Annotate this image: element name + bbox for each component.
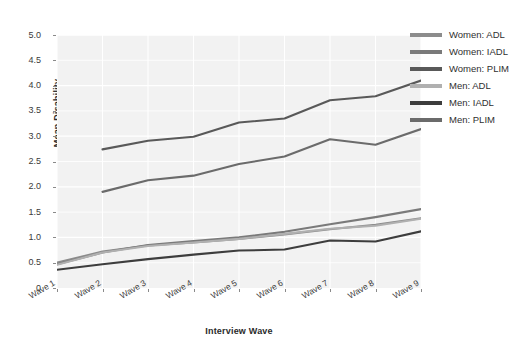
x-tick-mark: [421, 289, 422, 292]
series-line: [103, 81, 422, 150]
x-tick-mark: [285, 289, 286, 292]
y-tick-mark: [53, 35, 56, 36]
y-tick-label: 2.0: [0, 182, 50, 191]
legend-label: Women: ADL: [449, 29, 505, 40]
y-tick-label: 3.5: [0, 106, 50, 115]
x-axis-title: Interview Wave: [57, 326, 421, 336]
legend-label: Men: IADL: [449, 97, 494, 108]
x-tick-mark: [239, 289, 240, 292]
legend-item[interactable]: Women: ADL: [410, 26, 527, 43]
y-tick-mark: [53, 86, 56, 87]
legend-swatch: [410, 101, 442, 105]
legend-label: Women: PLIM: [449, 63, 509, 74]
legend-swatch: [410, 33, 442, 37]
legend-item[interactable]: Men: ADL: [410, 77, 527, 94]
legend-item[interactable]: Men: IADL: [410, 94, 527, 111]
x-tick-mark: [330, 289, 331, 292]
plot-lines: [57, 35, 421, 288]
x-tick-mark: [57, 289, 58, 292]
y-tick-mark: [53, 136, 56, 137]
legend-item[interactable]: Men: PLIM: [410, 111, 527, 128]
legend-swatch: [410, 67, 442, 71]
y-tick-mark: [53, 263, 56, 264]
y-tick-mark: [53, 212, 56, 213]
y-tick-label: 4.0: [0, 81, 50, 90]
legend-item[interactable]: Women: IADL: [410, 43, 527, 60]
y-tick-label: 5.0: [0, 31, 50, 40]
y-tick-label: 1.0: [0, 233, 50, 242]
legend-label: Men: ADL: [449, 80, 491, 91]
legend-swatch: [410, 84, 442, 88]
chart-legend: Women: ADLWomen: IADLWomen: PLIMMen: ADL…: [410, 26, 527, 128]
x-tick-mark: [148, 289, 149, 292]
y-tick-mark: [53, 187, 56, 188]
x-tick-mark: [376, 289, 377, 292]
legend-item[interactable]: Women: PLIM: [410, 60, 527, 77]
y-tick-label: 2.5: [0, 157, 50, 166]
y-tick-mark: [53, 237, 56, 238]
chart-figure: Mean Disability 00.51.01.52.02.53.03.54.…: [0, 0, 527, 344]
legend-label: Women: IADL: [449, 46, 508, 57]
y-tick-mark: [53, 162, 56, 163]
legend-label: Men: PLIM: [449, 114, 495, 125]
x-tick-mark: [103, 289, 104, 292]
y-tick-mark: [53, 60, 56, 61]
y-tick-mark: [53, 288, 56, 289]
plot-panel: [57, 35, 421, 288]
y-tick-label: 0.5: [0, 258, 50, 267]
y-tick-label: 4.5: [0, 56, 50, 65]
y-tick-label: 1.5: [0, 208, 50, 217]
x-tick-mark: [194, 289, 195, 292]
legend-swatch: [410, 118, 442, 122]
legend-swatch: [410, 50, 442, 54]
y-tick-mark: [53, 111, 56, 112]
y-tick-label: 3.0: [0, 132, 50, 141]
series-line: [103, 129, 422, 192]
